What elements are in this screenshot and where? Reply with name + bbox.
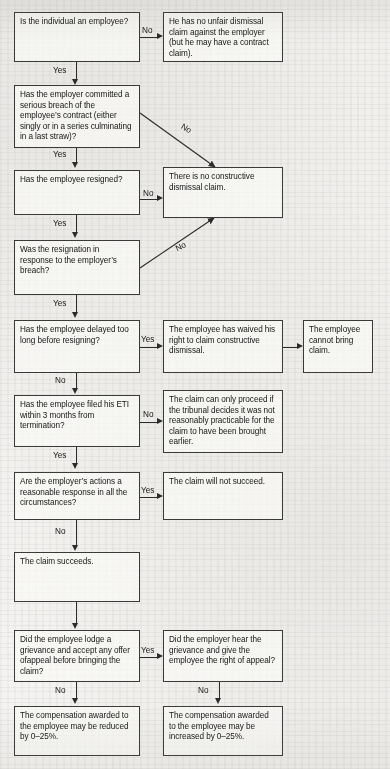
edge-n16-n18-line [219, 682, 220, 698]
node-text: There is no constructive dismissal claim… [169, 172, 277, 193]
edge-label-n10-n11: No [143, 410, 153, 419]
edge-n4-n6-arrow [72, 232, 78, 238]
node-employee-lodge-grievance[interactable]: Did the employee lodge a grievance and a… [14, 630, 140, 682]
node-employee-filed-eti[interactable]: Has the employee filed his ETI within 3 … [14, 395, 140, 447]
node-is-individual-employee[interactable]: Is the individual an employee? [14, 12, 140, 62]
edge-n8-n9-line [283, 347, 297, 348]
edge-label-n15-n16: Yes [141, 646, 154, 655]
node-text: The claim will not succeed. [169, 477, 277, 488]
node-text: The claim can only proceed if the tribun… [169, 395, 277, 448]
node-employee-delayed-too-long[interactable]: Has the employee delayed too long before… [14, 320, 140, 373]
edge-label-n7-n10: No [55, 376, 65, 385]
edge-n16-n18-arrow [215, 698, 221, 704]
edge-n6-n7-arrow [72, 312, 78, 318]
edge-n8-n9-arrow [297, 343, 303, 349]
node-text: Is the individual an employee? [20, 17, 134, 28]
edge-n10-n12-arrow [72, 463, 78, 469]
edge-n4-n5-line [140, 199, 157, 200]
edge-n15-n16-arrow [157, 653, 163, 659]
node-text: The employee has waived his right to cla… [169, 325, 277, 357]
node-text: Did the employee lodge a grievance and a… [20, 635, 134, 677]
edge-n15-n17-arrow [72, 698, 78, 704]
edge-n7-n8-line [140, 347, 157, 348]
node-no-unfair-dismissal-claim[interactable]: He has no unfair dismissal claim against… [163, 12, 283, 62]
node-compensation-reduced[interactable]: The compensation awarded to the employee… [14, 706, 140, 756]
node-text: Was the resignation in response to the e… [20, 245, 134, 277]
edge-label-n15-n17: No [55, 686, 65, 695]
edge-n1-n3-arrow [72, 79, 78, 85]
node-text: Has the employee delayed too long before… [20, 325, 134, 346]
node-text: The compensation awarded to the employee… [169, 711, 277, 743]
node-claim-can-only-proceed[interactable]: The claim can only proceed if the tribun… [163, 390, 283, 453]
edge-n3-n4-arrow [72, 162, 78, 168]
edge-n10-n11-line [140, 422, 157, 423]
edge-n12-n14-arrow [72, 545, 78, 551]
edge-label-n3-n4: Yes [53, 150, 66, 159]
edge-n3-n4-line [76, 148, 77, 162]
node-employer-actions-reasonable[interactable]: Are the employer’s actions a reasonable … [14, 472, 140, 520]
edge-label-n3-n5: No [179, 122, 193, 135]
edge-label-n6-n5: No [174, 240, 187, 253]
edge-n10-n12-line [76, 447, 77, 463]
node-text: Has the employee filed his ETI within 3 … [20, 400, 134, 432]
edge-n12-n13-arrow [157, 493, 163, 499]
node-text: Did the employer hear the grievance and … [169, 635, 277, 667]
edge-n7-n10-arrow [72, 388, 78, 394]
edge-n6-n7-line [76, 295, 77, 312]
edge-n4-n6-line [76, 215, 77, 232]
edge-n15-n16-line [140, 657, 157, 658]
node-claim-succeeds[interactable]: The claim succeeds. [14, 552, 140, 602]
edge-label-n4-n6: Yes [53, 219, 66, 228]
node-text: The claim succeeds. [20, 557, 134, 568]
node-resignation-in-response[interactable]: Was the resignation in response to the e… [14, 240, 140, 295]
edge-n7-n8-arrow [157, 343, 163, 349]
edge-n14-n15-arrow [72, 623, 78, 629]
edge-n1-n3-line [76, 62, 77, 79]
flowchart-page: "No" --> n5 (There is no constructive di… [0, 0, 390, 769]
edge-n3-n5 [140, 113, 215, 167]
node-text: He has no unfair dismissal claim against… [169, 17, 277, 59]
edge-n1-n2-arrow [157, 33, 163, 39]
edge-label-n1-n3: Yes [53, 66, 66, 75]
edge-n12-n13-line [140, 497, 157, 498]
edge-label-n10-n12: Yes [53, 451, 66, 460]
node-no-constructive-dismissal-claim[interactable]: There is no constructive dismissal claim… [163, 167, 283, 218]
edge-label-n16-n18: No [198, 686, 208, 695]
edge-n7-n10-line [76, 373, 77, 388]
edge-label-n4-n5: No [143, 189, 153, 198]
edge-label-n1-n2: No [142, 26, 152, 35]
edge-n14-n15-line [76, 602, 77, 623]
edge-n12-n14-line [76, 520, 77, 545]
edge-label-n12-n13: Yes [141, 486, 154, 495]
node-employee-waived-right[interactable]: The employee has waived his right to cla… [163, 320, 283, 373]
node-employee-resigned[interactable]: Has the employee resigned? [14, 170, 140, 215]
edge-label-n7-n8: Yes [141, 335, 154, 344]
node-compensation-increased[interactable]: The compensation awarded to the employee… [163, 706, 283, 756]
node-employer-serious-breach[interactable]: Has the employer committed a serious bre… [14, 85, 140, 148]
node-employer-hear-grievance[interactable]: Did the employer hear the grievance and … [163, 630, 283, 682]
node-text: Are the employer’s actions a reasonable … [20, 477, 134, 509]
node-claim-will-not-succeed[interactable]: The claim will not succeed. [163, 472, 283, 520]
edge-label-n6-n7: Yes [53, 299, 66, 308]
node-text: The compensation awarded to the employee… [20, 711, 134, 743]
node-employee-cannot-bring-claim[interactable]: The employee cannot bring claim. [303, 320, 373, 373]
node-text: Has the employee resigned? [20, 175, 134, 186]
edge-n15-n17-line [76, 682, 77, 698]
edge-label-n12-n14: No [55, 527, 65, 536]
edge-n10-n11-arrow [157, 418, 163, 424]
node-text: Has the employer committed a serious bre… [20, 90, 134, 143]
edge-n1-n2-line [140, 37, 157, 38]
node-text: The employee cannot bring claim. [309, 325, 367, 357]
edge-n4-n5-arrow [157, 195, 163, 201]
